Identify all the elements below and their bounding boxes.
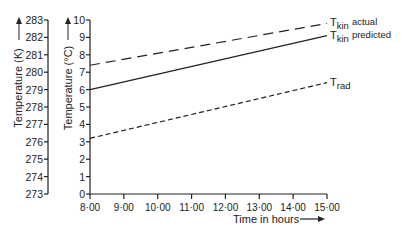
y-tick-label: 2: [79, 153, 85, 165]
y2-tick-label: 278: [25, 101, 43, 113]
y2-tick-label: 281: [25, 49, 43, 61]
y-tick-label: 7: [79, 66, 85, 78]
y2-tick-label: 276: [25, 136, 43, 148]
series-label: Trad: [330, 76, 350, 91]
x-tick-label: 8·00: [80, 202, 100, 213]
x-arrow-icon: [300, 216, 325, 222]
time-axis: 8·009·0010·0011·0012·0013·0014·0015·00: [80, 194, 340, 213]
y-axis-label: Temperature (°C): [62, 46, 74, 130]
y-tick-label: 10: [73, 14, 85, 26]
y-tick-label: 6: [79, 84, 85, 96]
y-tick-label: 5: [79, 101, 85, 113]
y2-tick-label: 273: [25, 188, 43, 200]
x-tick-label: 14·00: [280, 202, 306, 213]
temperature-chart: 283282281280279278277276275274273 012345…: [0, 0, 410, 234]
x-tick-label: 11·00: [179, 202, 204, 213]
x-tick-label: 15·00: [314, 202, 340, 213]
y2-axis-label: Temperature (K): [12, 48, 24, 127]
series-lines: [90, 23, 327, 138]
y-tick-label: 0: [79, 188, 85, 200]
celsius-axis: 012345678910: [73, 14, 90, 200]
x-tick-label: 10·00: [145, 202, 171, 213]
y2-tick-label: 277: [25, 118, 43, 130]
x-tick-label: 12·00: [213, 202, 239, 213]
y-tick-label: 3: [79, 136, 85, 148]
y2-tick-label: 283: [25, 14, 43, 26]
y2-tick-label: 279: [25, 84, 43, 96]
x-axis-label: Time in hours: [233, 213, 300, 225]
kelvin-axis: 283282281280279278277276275274273: [25, 14, 48, 200]
x-tick-label: 13·00: [246, 202, 272, 213]
y-tick-label: 4: [79, 118, 85, 130]
series-line: [90, 83, 327, 139]
x-tick-label: 9·00: [114, 202, 134, 213]
y2-tick-label: 282: [25, 31, 43, 43]
y2-tick-label: 280: [25, 66, 43, 78]
y-arrow-icon: [65, 17, 71, 40]
y2-tick-label: 275: [25, 153, 43, 165]
y-tick-label: 8: [79, 49, 85, 61]
y-tick-label: 1: [79, 171, 85, 183]
series-labels: TkinactualTkinpredictedTrad: [330, 16, 391, 90]
y2-tick-label: 274: [25, 171, 43, 183]
y-tick-label: 9: [79, 31, 85, 43]
y2-arrow-icon: [16, 17, 22, 40]
